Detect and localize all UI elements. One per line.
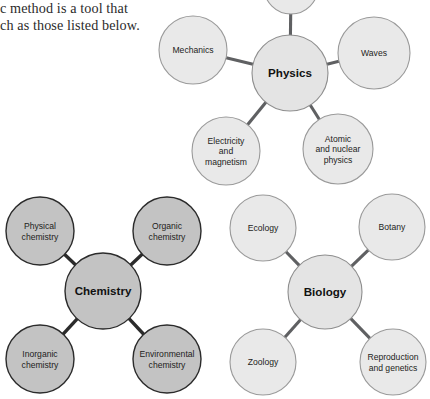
hub-chemistry-label: Chemistry (75, 284, 132, 297)
node-electricity-and-magnetism-label-line: magnetism (205, 157, 247, 167)
science-branches-diagram: MechanicsWavesElectricityandmagnetismAto… (0, 0, 430, 399)
node-inorganic-chemistry-label: Inorganicchemistry (22, 349, 59, 369)
connector-edge (350, 318, 371, 339)
node-reproduction-and-genetics-label-line: Reproduction (367, 352, 418, 362)
node-physical-chemistry-label-line: chemistry (22, 232, 59, 242)
node-reproduction-and-genetics-label-line: and genetics (369, 363, 418, 373)
diagram-page: c method is a tool that ch as those list… (0, 0, 430, 399)
node-physical-chemistry-label-line: Physical (24, 221, 56, 231)
node-environmental-chemistry-label-line: Environmental (140, 349, 195, 359)
node-mechanics-label: Mechanics (172, 45, 213, 55)
node-inorganic-chemistry-label-line: Inorganic (22, 349, 58, 359)
node-organic-chemistry-label-line: Organic (152, 221, 183, 231)
node-botany-label-line: Botany (379, 222, 406, 232)
node-botany-label: Botany (379, 222, 406, 232)
hub-physics-label-line: Physics (268, 66, 312, 79)
connector-edge (130, 254, 143, 266)
node-ecology-label-line: Ecology (248, 223, 279, 233)
node-atomic-and-nuclear-physics-label-line: Atomic (325, 134, 352, 144)
nodes-layer: MechanicsWavesElectricityandmagnetismAto… (6, 0, 426, 395)
node-atomic-and-nuclear-physics-label-line: and nuclear (316, 144, 361, 154)
node-waves-label-line: Waves (361, 48, 387, 58)
node-waves-label: Waves (361, 48, 387, 58)
connector-edge (310, 104, 320, 120)
connector-edge (62, 318, 77, 335)
node-mechanics-label-line: Mechanics (172, 45, 213, 55)
connector-edge (128, 318, 144, 335)
node-organic-chemistry-label-line: chemistry (149, 232, 186, 242)
node-organic-chemistry-label: Organicchemistry (149, 221, 186, 241)
connector-edge (64, 254, 76, 266)
node-electricity-and-magnetism-label-line: Electricity (208, 136, 245, 146)
connector-edge (285, 251, 300, 266)
connector-edge (351, 249, 369, 267)
hub-physics-label: Physics (268, 66, 312, 79)
node-atomic-and-nuclear-physics-label-line: physics (324, 155, 353, 165)
connector-edge (225, 58, 254, 65)
node-zoology-label: Zoology (248, 357, 279, 367)
node-environmental-chemistry-label-line: chemistry (149, 360, 186, 370)
node-physical-chemistry-label: Physicalchemistry (22, 221, 59, 241)
hub-biology-label-line: Biology (304, 285, 347, 298)
node-inorganic-chemistry-label-line: chemistry (22, 360, 59, 370)
hub-chemistry-label-line: Chemistry (75, 284, 132, 297)
node-reproduction-and-genetics-label: Reproductionand genetics (367, 352, 418, 372)
connector-edge (247, 102, 267, 126)
node-zoology-label-line: Zoology (248, 357, 279, 367)
connector-edge (326, 61, 340, 64)
node-clipped-top-circle[interactable] (264, 0, 318, 14)
node-electricity-and-magnetism-label-line: and (219, 146, 234, 156)
hub-biology-label: Biology (304, 285, 347, 298)
connector-edge (284, 319, 301, 338)
node-ecology-label: Ecology (248, 223, 279, 233)
